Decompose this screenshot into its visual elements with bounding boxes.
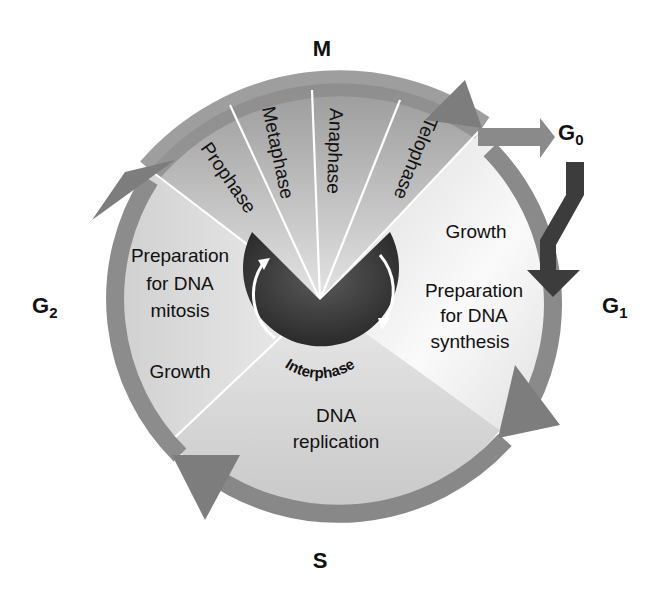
cell-cycle-diagram: Interphase Prophase Metaphase Anaphase T… [0,0,658,599]
anaphase-label: Anaphase [323,108,347,194]
g2-prep-line2: for DNA [146,273,214,294]
g2-prep-line1: Preparation [131,245,229,266]
s-phase-label: S [313,548,328,573]
g2-prep-line3: mitosis [150,300,209,321]
g0-phase-label: G0 [558,120,583,148]
g1-prep-line3: synthesis [430,331,509,352]
g2-phase-label: G2 [32,293,57,321]
s-dna: DNA [316,405,356,426]
s-replication: replication [293,431,380,452]
m-phase-label: M [313,36,331,61]
g1-phase-label: G1 [602,293,627,321]
g1-growth: Growth [445,221,506,242]
g1-prep-line2: for DNA [440,305,508,326]
g1-prep-line1: Preparation [425,280,523,301]
g2-growth: Growth [149,361,210,382]
